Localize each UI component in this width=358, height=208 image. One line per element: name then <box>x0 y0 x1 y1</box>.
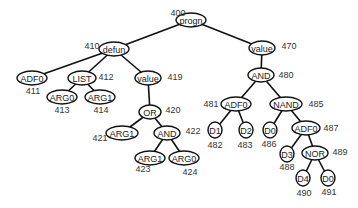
node-id-label: 411 <box>26 86 40 96</box>
tree-node-485: NAND <box>270 97 302 111</box>
node-id-label: 481 <box>203 99 218 109</box>
node-label: D3 <box>281 150 293 160</box>
node-label: NAND <box>273 100 299 110</box>
tree-node-488: D3 <box>280 146 294 162</box>
node-label: ARG1 <box>88 93 113 103</box>
tree-node-412: LIST <box>68 71 96 85</box>
node-label: value <box>251 44 273 54</box>
tree-node-491: D0 <box>321 170 335 186</box>
tree-node-486: D0 <box>263 122 277 138</box>
node-id-label: 410 <box>84 41 99 51</box>
node-id-label: 413 <box>54 105 69 115</box>
node-label: LIST <box>72 74 92 84</box>
node-id-label: 490 <box>296 188 311 198</box>
node-label: value <box>137 74 159 84</box>
tree-node-420: OR <box>139 105 161 119</box>
node-id-label: 491 <box>321 187 336 197</box>
node-id-label: 419 <box>167 72 182 82</box>
node-id-label: 486 <box>261 139 276 149</box>
node-id-label: 420 <box>165 105 180 115</box>
tree-node-421: ARG1 <box>106 126 138 140</box>
node-label: NOR <box>305 149 326 159</box>
node-label: ARG1 <box>110 129 135 139</box>
tree-node-482: D1 <box>208 122 222 138</box>
node-id-label: 414 <box>93 105 108 115</box>
node-label: D4 <box>297 174 309 184</box>
node-id-label: 482 <box>207 140 222 150</box>
node-label: OR <box>143 108 157 118</box>
node-id-label: 470 <box>281 41 296 51</box>
node-label: D0 <box>264 126 276 136</box>
tree-node-419: value <box>135 71 161 85</box>
tree-node-480: AND <box>248 68 274 82</box>
node-id-label: 487 <box>323 123 338 133</box>
node-id-label: 421 <box>92 133 107 143</box>
tree-node-487: ADF0 <box>292 121 320 135</box>
node-id-label: 489 <box>332 147 347 157</box>
node-label: ADF0 <box>224 100 247 110</box>
node-id-label: 422 <box>185 126 200 136</box>
node-label: defun <box>103 45 126 55</box>
node-id-label: 483 <box>237 140 252 150</box>
tree-node-413: ARG0 <box>47 90 77 104</box>
tree-node-422: AND <box>154 126 180 140</box>
tree-node-483: D2 <box>239 122 253 138</box>
node-label: ADF0 <box>20 74 43 84</box>
tree-nodes: progndefunvalueADF0LISTvalueARG0ARG1ANDO… <box>17 13 335 186</box>
node-label: D2 <box>240 126 252 136</box>
node-label: D0 <box>322 174 334 184</box>
node-label: D1 <box>209 126 221 136</box>
parse-tree-diagram: progndefunvalueADF0LISTvalueARG0ARG1ANDO… <box>0 0 358 208</box>
tree-node-470: value <box>249 41 275 55</box>
node-label: ARG0 <box>172 154 197 164</box>
node-id-label: 424 <box>182 167 197 177</box>
node-label: ARG1 <box>138 154 163 164</box>
node-label: AND <box>157 129 177 139</box>
tree-node-411: ADF0 <box>17 71 47 85</box>
tree-node-410: defun <box>99 42 129 56</box>
node-id-label: 423 <box>135 164 150 174</box>
tree-node-490: D4 <box>296 170 310 186</box>
tree-node-424: ARG0 <box>169 151 199 165</box>
node-id-label: 400 <box>170 8 185 18</box>
node-id-label: 412 <box>98 72 113 82</box>
node-label: AND <box>251 71 271 81</box>
tree-node-414: ARG1 <box>85 90 115 104</box>
node-label: ADF0 <box>294 124 317 134</box>
tree-node-423: ARG1 <box>135 151 165 165</box>
node-id-label: 480 <box>278 70 293 80</box>
node-id-label: 488 <box>279 162 294 172</box>
tree-node-489: NOR <box>302 146 328 160</box>
tree-node-481: ADF0 <box>221 97 251 111</box>
node-id-label: 485 <box>308 99 323 109</box>
node-label: ARG0 <box>50 93 75 103</box>
